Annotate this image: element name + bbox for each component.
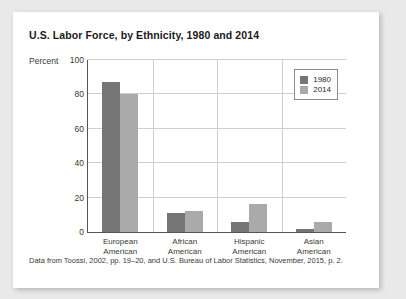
x-axis-tick-label: HispanicAmerican xyxy=(212,237,286,257)
x-axis-tick-label-line: Asian xyxy=(277,237,351,247)
x-axis-tick-label: AsianAmerican xyxy=(277,237,351,257)
bar-group xyxy=(167,60,203,232)
legend-item: 1980 xyxy=(300,75,331,84)
bar xyxy=(167,213,185,232)
bar xyxy=(185,211,203,232)
bar xyxy=(314,222,332,232)
bar-group xyxy=(231,60,267,232)
legend-label: 2014 xyxy=(313,85,331,94)
page-background: U.S. Labor Force, by Ethnicity, 1980 and… xyxy=(0,0,406,299)
y-axis-label: Percent xyxy=(29,56,58,66)
legend-label: 1980 xyxy=(313,75,331,84)
bar xyxy=(120,94,138,232)
figure-card: U.S. Labor Force, by Ethnicity, 1980 and… xyxy=(13,12,379,288)
legend-swatch-icon xyxy=(300,76,308,84)
x-axis-tick-label: EuropeanAmerican xyxy=(83,237,157,257)
y-axis-tick-label: 40 xyxy=(75,158,84,168)
y-axis-tick-label: 20 xyxy=(75,193,84,203)
bar xyxy=(296,229,314,232)
chart-title: U.S. Labor Force, by Ethnicity, 1980 and… xyxy=(29,29,259,41)
x-axis-tick-label: AfricanAmerican xyxy=(148,237,222,257)
x-axis-tick-label-line: Hispanic xyxy=(212,237,286,247)
y-axis-tick-label: 0 xyxy=(79,227,84,237)
y-axis-tick-label: 80 xyxy=(75,89,84,99)
y-axis-tick-label: 60 xyxy=(75,124,84,134)
bar-group xyxy=(102,60,138,232)
plot-area-wrapper: 020406080100 EuropeanAmericanAfricanAmer… xyxy=(87,60,346,233)
bar xyxy=(231,222,249,232)
source-note: Data from Toossi, 2002, pp. 19–20, and U… xyxy=(29,255,359,266)
legend-item: 2014 xyxy=(300,85,331,94)
chart-legend: 19802014 xyxy=(294,69,338,100)
legend-swatch-icon xyxy=(300,86,308,94)
x-axis-tick-label-line: African xyxy=(148,237,222,247)
bar xyxy=(102,82,120,232)
y-axis-tick-label: 100 xyxy=(70,55,84,65)
x-axis-tick-label-line: European xyxy=(83,237,157,247)
bar xyxy=(249,204,267,232)
plot-area: 020406080100 EuropeanAmericanAfricanAmer… xyxy=(87,60,346,233)
